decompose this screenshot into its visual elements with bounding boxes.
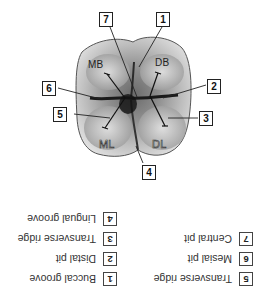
- answer-key-label: Transverse ridge: [18, 233, 96, 245]
- callout-2: 2: [207, 79, 221, 94]
- answer-key-label: Lingual groove: [27, 213, 96, 225]
- diagram-stage: 7 1 2 6 5 3 4 MB DB ML DL 1 Buccal groov…: [0, 0, 263, 292]
- answer-key-item-6: 6 Mesial pit: [188, 252, 253, 266]
- answer-key-label: Transverse ridge: [154, 273, 232, 285]
- answer-key-item-3: 3 Transverse ridge: [18, 232, 117, 246]
- callout-7: 7: [99, 12, 113, 27]
- answer-key-item-4: 4 Lingual groove: [27, 212, 117, 226]
- callout-4: 4: [142, 165, 156, 180]
- answer-key-number: 4: [103, 212, 117, 226]
- answer-key-number: 1: [103, 272, 117, 286]
- answer-key-item-1: 1 Buccal groove: [29, 272, 117, 286]
- region-label-dl: DL: [152, 138, 166, 150]
- answer-key-label: Distal pit: [56, 253, 96, 265]
- region-label-mb: MB: [88, 59, 103, 70]
- region-label-ml: ML: [99, 138, 115, 150]
- answer-key-number: 6: [239, 252, 253, 266]
- answer-key-item-7: 7 Central pit: [184, 232, 253, 246]
- callout-6: 6: [42, 81, 56, 96]
- answer-key-number: 3: [103, 232, 117, 246]
- callout-1: 1: [156, 12, 170, 27]
- answer-key-item-5: 5 Transverse ridge: [154, 272, 253, 286]
- answer-key-label: Mesial pit: [188, 253, 232, 265]
- answer-key: 1 Buccal groove 2 Distal pit 3 Transvers…: [0, 192, 263, 292]
- answer-key-label: Buccal groove: [29, 273, 96, 285]
- callout-5: 5: [53, 107, 67, 122]
- answer-key-number: 5: [239, 272, 253, 286]
- answer-key-item-2: 2 Distal pit: [56, 252, 117, 266]
- region-label-db: DB: [155, 57, 169, 68]
- answer-key-label: Central pit: [184, 233, 232, 245]
- callout-3: 3: [199, 111, 213, 126]
- answer-key-number: 2: [103, 252, 117, 266]
- answer-key-number: 7: [239, 232, 253, 246]
